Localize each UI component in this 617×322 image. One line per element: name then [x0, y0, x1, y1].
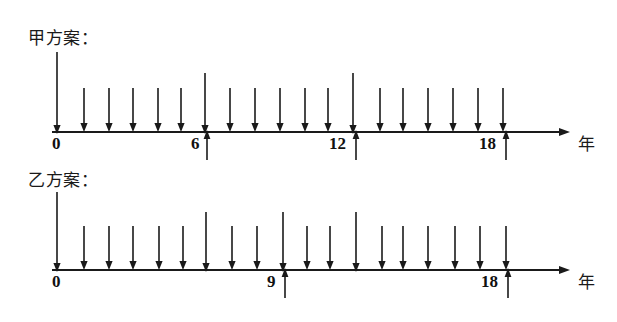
- axis-arrowhead-plan-yi: [559, 266, 570, 274]
- down-arrow-plan-jia-3: [129, 88, 136, 132]
- down-arrow-plan-yi-2-head: [105, 261, 112, 270]
- down-arrow-plan-jia-16-head: [449, 123, 456, 132]
- down-arrow-plan-yi-10-head: [303, 261, 310, 270]
- down-arrow-plan-yi-18-head: [502, 261, 509, 270]
- down-arrow-plan-jia-4: [154, 88, 161, 132]
- tick-label-yi-9: 9: [267, 272, 276, 292]
- down-arrow-plan-jia-6: [201, 73, 208, 134]
- down-arrow-plan-jia-5-head: [177, 123, 184, 132]
- tick-label-yi-18: 18: [481, 272, 498, 292]
- down-arrow-plan-jia-17-head: [474, 123, 481, 132]
- down-arrow-plan-jia-2: [105, 88, 112, 132]
- down-arrow-plan-jia-9-head: [276, 123, 283, 132]
- down-arrow-plan-yi-5-head: [179, 261, 186, 270]
- axis-arrowhead-plan-jia: [559, 128, 570, 136]
- down-arrow-plan-jia-15: [424, 88, 431, 132]
- down-arrow-plan-yi-16-head: [451, 261, 458, 270]
- tick-label-jia-0: 0: [52, 134, 61, 154]
- down-arrow-plan-jia-18: [499, 88, 506, 132]
- down-arrow-plan-jia-1: [80, 88, 87, 132]
- down-arrow-plan-yi-13-head: [378, 261, 385, 270]
- down-arrow-plan-jia-3-head: [129, 123, 136, 132]
- down-arrow-plan-jia-17: [474, 88, 481, 132]
- tick-label-jia-12: 12: [329, 134, 346, 154]
- down-arrow-plan-jia-8-head: [251, 123, 258, 132]
- down-arrow-plan-jia-18-head: [499, 123, 506, 132]
- up-arrow-plan-jia-0: [204, 130, 211, 160]
- down-arrow-plan-jia-8: [251, 88, 258, 132]
- up-arrow-plan-yi-1: [505, 268, 512, 298]
- down-arrow-plan-yi-11-head: [326, 261, 333, 270]
- down-arrow-plan-yi-3: [129, 226, 136, 270]
- axis-unit-label-yi: 年: [578, 268, 595, 293]
- down-arrow-plan-yi-4-head: [155, 261, 162, 270]
- down-arrow-plan-yi-0: [53, 192, 60, 272]
- down-arrow-plan-yi-3-head: [129, 261, 136, 270]
- down-arrow-plan-yi-12: [352, 212, 359, 272]
- down-arrow-plan-jia-1-head: [80, 123, 87, 132]
- down-arrow-plan-jia-10-head: [301, 123, 308, 132]
- down-arrow-plan-yi-18: [502, 226, 509, 270]
- down-arrow-plan-jia-0: [53, 52, 60, 134]
- down-arrow-plan-yi-14-head: [399, 261, 406, 270]
- down-arrow-plan-yi-7-head: [228, 261, 235, 270]
- tick-label-jia-6: 6: [191, 134, 200, 154]
- up-arrow-plan-jia-2: [503, 130, 510, 160]
- down-arrow-plan-jia-14-head: [399, 123, 406, 132]
- down-arrow-plan-yi-15: [424, 226, 431, 270]
- down-arrow-plan-yi-17-head: [476, 261, 483, 270]
- down-arrow-plan-yi-14: [399, 226, 406, 270]
- tick-label-jia-18: 18: [479, 134, 496, 154]
- down-arrow-plan-yi-17: [476, 226, 483, 270]
- down-arrow-plan-jia-7-head: [226, 123, 233, 132]
- down-arrow-plan-jia-7: [226, 88, 233, 132]
- down-arrow-plan-jia-4-head: [154, 123, 161, 132]
- down-arrow-plan-jia-2-head: [105, 123, 112, 132]
- plan-yi-caption: 乙方案：: [28, 166, 98, 191]
- down-arrow-plan-jia-5: [177, 88, 184, 132]
- down-arrow-plan-yi-9: [279, 212, 286, 272]
- diagram-canvas: 甲方案： 0 6 12 18 年 乙方案： 0 9 18 年: [0, 0, 617, 322]
- down-arrow-plan-yi-6: [202, 212, 209, 272]
- down-arrow-plan-yi-7: [228, 226, 235, 270]
- down-arrow-plan-yi-16: [451, 226, 458, 270]
- down-arrow-plan-jia-15-head: [424, 123, 431, 132]
- plan-jia-caption: 甲方案：: [28, 24, 98, 49]
- down-arrow-plan-yi-15-head: [424, 261, 431, 270]
- down-arrow-plan-yi-5: [179, 226, 186, 270]
- down-arrow-plan-yi-13: [378, 226, 385, 270]
- down-arrow-plan-jia-14: [399, 88, 406, 132]
- down-arrow-plan-yi-1: [80, 226, 87, 270]
- down-arrow-plan-jia-13: [376, 88, 383, 132]
- up-arrow-plan-jia-1: [353, 130, 360, 160]
- down-arrow-plan-jia-10: [301, 88, 308, 132]
- down-arrow-plan-yi-2: [105, 226, 112, 270]
- down-arrow-plan-jia-11: [324, 88, 331, 132]
- up-arrow-plan-yi-0: [282, 268, 289, 298]
- down-arrow-plan-jia-16: [449, 88, 456, 132]
- down-arrow-plan-yi-1-head: [80, 261, 87, 270]
- down-arrow-plan-yi-8-head: [253, 261, 260, 270]
- down-arrow-plan-yi-4: [155, 226, 162, 270]
- down-arrow-plan-yi-11: [326, 226, 333, 270]
- axis-unit-label-jia: 年: [578, 130, 595, 155]
- down-arrow-plan-yi-10: [303, 226, 310, 270]
- down-arrow-plan-jia-12: [349, 73, 356, 134]
- down-arrow-plan-jia-9: [276, 88, 283, 132]
- tick-label-yi-0: 0: [52, 272, 61, 292]
- down-arrow-plan-jia-11-head: [324, 123, 331, 132]
- down-arrow-plan-jia-13-head: [376, 123, 383, 132]
- down-arrow-plan-yi-8: [253, 226, 260, 270]
